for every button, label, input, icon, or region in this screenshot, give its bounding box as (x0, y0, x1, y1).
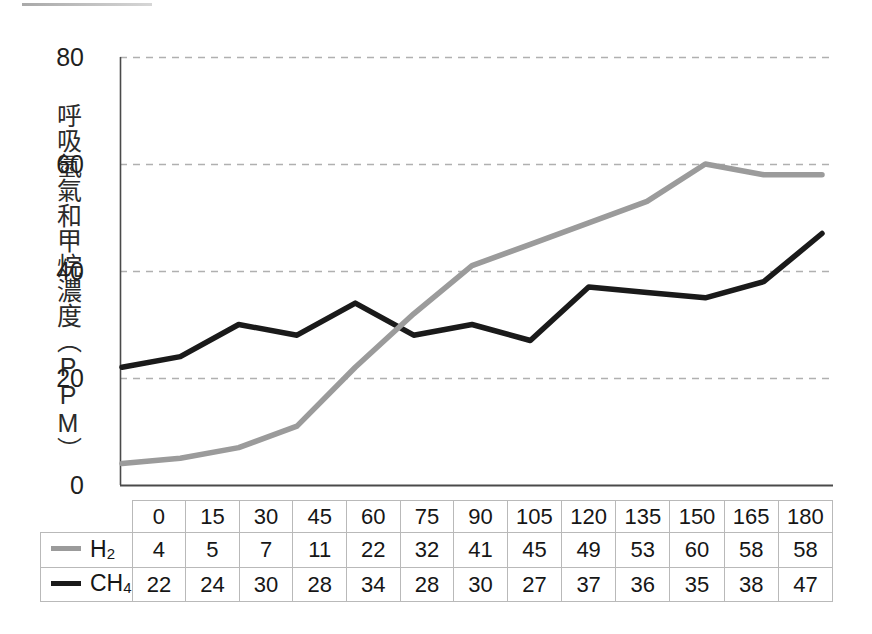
table-column-header: 150 (670, 501, 724, 533)
table-cell: 28 (293, 567, 347, 602)
table-cell: 7 (239, 533, 293, 568)
table-cell: 53 (616, 533, 670, 568)
table-column-header: 0 (132, 501, 186, 533)
table-cell: 60 (670, 533, 724, 568)
table-corner-cell (41, 501, 133, 533)
table-cell: 24 (186, 567, 240, 602)
table-column-header: 105 (507, 501, 561, 533)
table-cell: 22 (132, 567, 186, 602)
table-cell: 11 (293, 533, 347, 568)
table-header-row: 0153045607590105120135150165180 (41, 501, 833, 533)
table-column-header: 135 (616, 501, 670, 533)
table-cell: 58 (778, 533, 832, 568)
table-column-header: 120 (562, 501, 616, 533)
table-cell: 37 (562, 567, 616, 602)
table-cell: 45 (507, 533, 561, 568)
table-column-header: 30 (239, 501, 293, 533)
table-cell: 5 (186, 533, 240, 568)
table-cell: 34 (347, 567, 401, 602)
table-cell: 38 (724, 567, 778, 602)
table-row: CH422243028342830273736353847 (41, 567, 833, 602)
table-cell: 32 (400, 533, 454, 568)
table-cell: 28 (400, 567, 454, 602)
table-cell: 27 (507, 567, 561, 602)
legend-line-swatch (51, 581, 81, 586)
legend-series-label: H2 (90, 534, 115, 567)
series-line-ch4 (122, 234, 822, 368)
table-column-header: 45 (293, 501, 347, 533)
line-chart-figure: 呼吸氫氣和甲烷濃度（PPM） 80 60 40 20 0 01530456075… (0, 0, 872, 634)
table-column-header: 15 (186, 501, 240, 533)
table-row: H245711223241454953605858 (41, 533, 833, 568)
table-cell: 58 (724, 533, 778, 568)
table-cell: 41 (454, 533, 508, 568)
table-cell: 35 (670, 567, 724, 602)
table-column-header: 75 (400, 501, 454, 533)
series-line-h2 (122, 164, 822, 464)
table-body: H245711223241454953605858CH4222430283428… (41, 533, 833, 602)
table-cell: 49 (562, 533, 616, 568)
legend-cell-ch4: CH4 (41, 567, 133, 602)
legend-series-label: CH4 (90, 568, 132, 601)
table-column-header: 60 (347, 501, 401, 533)
data-table: 0153045607590105120135150165180 H2457112… (40, 500, 833, 602)
legend-line-swatch (51, 546, 81, 551)
table-column-header: 165 (724, 501, 778, 533)
table-column-header: 90 (454, 501, 508, 533)
table-cell: 30 (454, 567, 508, 602)
table-cell: 22 (347, 533, 401, 568)
table-cell: 47 (778, 567, 832, 602)
table-cell: 30 (239, 567, 293, 602)
table-cell: 4 (132, 533, 186, 568)
legend-cell-h2: H2 (41, 533, 133, 568)
table-column-header: 180 (778, 501, 832, 533)
table-cell: 36 (616, 567, 670, 602)
